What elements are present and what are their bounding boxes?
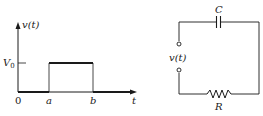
terminal-top	[177, 42, 181, 46]
resistor-zigzag-icon	[207, 90, 231, 98]
rc-circuit	[177, 16, 259, 98]
a-label: a	[46, 95, 52, 106]
wire-top-left	[179, 22, 216, 41]
terminal-bottom	[177, 68, 181, 72]
y-axis-label: v(t)	[22, 19, 40, 30]
v0-label: V0	[3, 57, 15, 70]
t-label: t	[132, 95, 137, 106]
b-label: b	[90, 95, 96, 106]
wire-bottom-left	[179, 73, 207, 94]
wire-right	[221, 22, 259, 94]
pulse-plot: v(t) V0 0 a b t	[3, 19, 137, 106]
capacitor-label: C	[215, 4, 223, 15]
figure: v(t) V0 0 a b t C R v(t)	[0, 0, 263, 116]
source-label: v(t)	[169, 52, 187, 63]
x-axis-arrow-icon	[130, 90, 137, 95]
origin-label: 0	[15, 95, 21, 106]
y-axis-arrow-icon	[16, 22, 21, 29]
resistor-label: R	[214, 101, 223, 112]
